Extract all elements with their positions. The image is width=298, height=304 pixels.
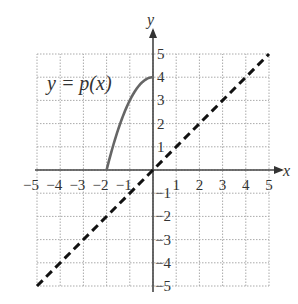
x-tick-label: −1 [116,177,132,193]
x-tick-label: 2 [196,177,204,193]
x-tick-label: −3 [69,177,85,193]
x-tick-label: 5 [265,177,273,193]
x-tick-label: −4 [46,177,62,193]
y-tick-label: 2 [157,116,165,132]
y-tick-label: 1 [157,139,165,155]
y-tick-label: 4 [157,69,165,85]
function-graph: −5−4−3−2−11234554321−1−2−3−4−5 x y y = p… [0,0,298,304]
y-tick-label: −5 [155,278,171,294]
axes [35,28,284,292]
x-tick-label: −2 [93,177,109,193]
y-tick-label: −2 [155,208,171,224]
y-tick-label: −3 [155,232,171,248]
y-axis-arrow-icon [149,28,157,38]
y-axis-label: y [145,11,155,29]
y-tick-label: −4 [155,255,171,271]
y-tick-label: 5 [157,46,165,62]
x-tick-label: 4 [242,177,250,193]
x-tick-label: 3 [219,177,227,193]
y-tick-label: 3 [157,92,165,108]
x-tick-label: −5 [23,177,39,193]
y-tick-label: −1 [155,185,171,201]
x-axis-label: x [282,162,290,179]
function-label: y = p(x) [45,72,112,95]
x-tick-label: 1 [172,177,180,193]
